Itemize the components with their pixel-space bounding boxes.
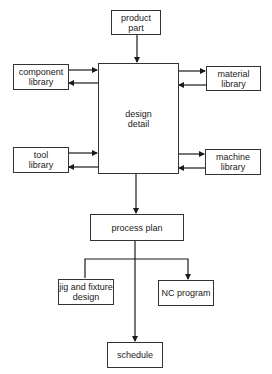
node-process-plan: process plan [90,214,184,241]
node-label: NC program [161,288,210,298]
connector-arrows [0,0,272,374]
node-schedule: schedule [107,342,163,368]
node-label: machine library [216,152,250,172]
node-component-library: component library [13,64,69,90]
node-jig-fixture-design: jig and fixture design [58,279,114,305]
node-tool-library: tool library [13,147,69,173]
node-label: component library [19,67,64,87]
node-design-detail: design detail [98,63,179,174]
node-machine-library: machine library [205,149,261,175]
node-label: design detail [125,109,152,129]
node-label: tool library [29,150,54,170]
node-material-library: material library [206,66,261,91]
node-label: product part [121,13,151,33]
node-label: jig and fixture design [59,282,113,302]
node-label: process plan [111,223,162,233]
node-nc-program: NC program [158,280,214,306]
node-product-part: product part [111,10,161,35]
node-label: schedule [117,350,153,360]
node-label: material library [217,69,249,89]
